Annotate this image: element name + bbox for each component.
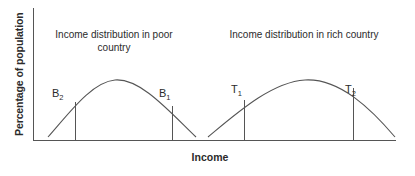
marker-subscript-t1: 1: [238, 89, 242, 98]
y-axis-title: Percentage of population: [13, 4, 25, 144]
curve-poor-country: [48, 80, 196, 137]
x-axis-title: Income: [160, 151, 260, 163]
income-distribution-figure: Percentage of population Income Income d…: [0, 0, 415, 176]
marker-label-t2: T2: [345, 84, 356, 98]
marker-subscript-t2: 2: [352, 89, 356, 98]
caption-rich-country: Income distribution in rich country: [228, 29, 380, 42]
marker-label-t1: T1: [231, 84, 242, 98]
caption-poor-country: Income distribution in poor country: [48, 29, 180, 54]
marker-letter-t2: T: [345, 83, 352, 95]
marker-label-b2: B2: [52, 88, 64, 102]
marker-subscript-b2: 2: [59, 93, 63, 102]
marker-label-b1: B1: [159, 88, 171, 102]
marker-letter-t1: T: [231, 83, 238, 95]
marker-subscript-b1: 1: [166, 93, 170, 102]
